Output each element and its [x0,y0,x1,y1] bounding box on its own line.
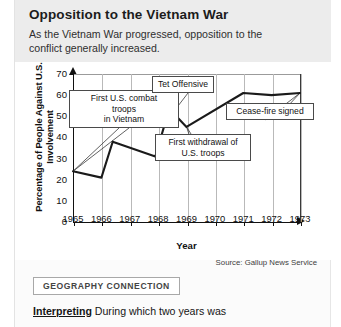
page-left-margin [0,0,15,327]
interpreting-label: Interpreting [33,305,92,317]
chart-source: Source: Gallup News Service [15,258,331,267]
callout-line: First withdrawal of [159,137,247,148]
leader-line [73,128,119,171]
callout-line: troops [73,104,175,115]
figure-header: Opposition to the Vietnam War As the Vie… [15,0,331,62]
textbook-page: Opposition to the Vietnam War As the Vie… [0,0,341,327]
leader-line [73,128,129,171]
interpreting-question: Interpreting During which two years was [33,305,323,317]
callout-first-withdrawal: First withdrawal ofU.S. troops [155,134,251,161]
callout-first-us-combat-troops: First U.S. combattroopsin Vietnam [69,90,179,128]
interpreting-body: During which two years was [95,305,226,317]
figure-subtitle: As the Vietnam War progressed, oppositio… [29,28,291,56]
callout-cease-fire-signed: Cease-fire signed [226,103,314,120]
callout-line: Cease-fire signed [230,106,310,117]
geography-connection-badge: GEOGRAPHY CONNECTION [33,277,180,295]
page-title: Opposition to the Vietnam War [29,8,317,23]
line-chart: Percentage of People Against U.S. Involv… [15,62,331,260]
page-right-margin [330,0,341,327]
callout-line: U.S. troops [159,148,247,159]
callout-line: First U.S. combat [73,93,175,104]
callout-line: in Vietnam [73,114,175,125]
callout-line: Tet Offensive [156,79,210,90]
callout-tet-offensive: Tet Offensive [152,76,214,93]
